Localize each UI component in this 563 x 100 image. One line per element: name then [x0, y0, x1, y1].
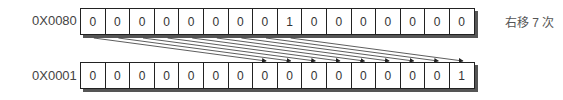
bottom-bit-cell: 0 [130, 63, 155, 88]
bottom-bit-cell: 0 [401, 63, 426, 88]
bottom-bit-cell: 0 [253, 63, 278, 88]
bottom-bit-cell: 0 [179, 63, 204, 88]
bottom-bit-cell: 0 [376, 63, 401, 88]
bottom-bit-cell: 0 [425, 63, 450, 88]
bottom-bit-cell: 0 [352, 63, 377, 88]
bottom-bit-cell: 1 [450, 63, 474, 88]
bottom-bit-cell: 0 [106, 63, 131, 88]
bottom-bit-cell: 0 [81, 63, 106, 88]
bottom-bit-cell: 0 [155, 63, 180, 88]
bottom-bit-cell: 0 [229, 63, 254, 88]
bottom-bit-cell: 0 [278, 63, 303, 88]
bottom-bit-cell: 0 [327, 63, 352, 88]
bottom-bit-cell: 0 [302, 63, 327, 88]
bottom-bit-row: 0000000000000001 [80, 62, 475, 89]
shift-arrow [192, 38, 364, 61]
bottom-bit-cell: 0 [204, 63, 229, 88]
